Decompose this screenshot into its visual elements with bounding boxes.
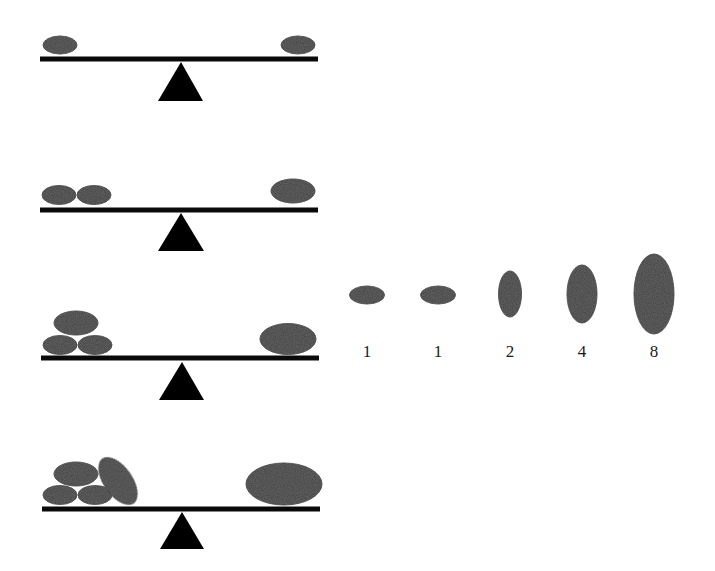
balance-beam [41, 356, 319, 361]
fulcrum-triangle [158, 213, 204, 251]
sequence-stone [634, 254, 674, 334]
sequence-stone [499, 271, 522, 317]
left-stone [43, 36, 77, 54]
left-stone [42, 186, 76, 205]
left-stone [78, 336, 112, 355]
weight-label: 1 [352, 343, 382, 360]
fulcrum-triangle [159, 362, 204, 400]
weight-sequence-group [350, 254, 675, 334]
sequence-stone [421, 286, 456, 304]
fulcrum-triangle [160, 512, 204, 549]
balance-scale [40, 179, 318, 251]
balance-beam [42, 507, 320, 512]
weight-label: 2 [495, 343, 525, 360]
weight-label: 4 [567, 343, 597, 360]
weight-label: 8 [639, 343, 669, 360]
balance-scale [42, 451, 322, 549]
left-stone [77, 186, 111, 205]
sequence-stone [567, 265, 597, 323]
balance-beam [40, 208, 318, 213]
balance-scale [40, 36, 318, 101]
sequence-stone [350, 286, 385, 304]
right-stone [246, 463, 322, 505]
balance-scale-diagram [0, 0, 715, 571]
balances-group [40, 36, 322, 549]
right-stone [260, 324, 316, 355]
left-stone [43, 336, 77, 355]
right-stone [281, 36, 315, 54]
left-stone [54, 462, 98, 486]
left-stone [43, 486, 77, 505]
balance-scale [41, 311, 319, 400]
weight-label: 1 [423, 343, 453, 360]
fulcrum-triangle [158, 62, 203, 101]
right-stone [271, 179, 315, 203]
balance-beam [40, 57, 318, 62]
left-stone [54, 311, 98, 335]
